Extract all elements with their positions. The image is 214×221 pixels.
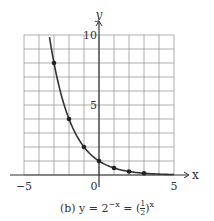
data-point (142, 171, 147, 176)
caption-prefix: (b) y = 2 (60, 202, 109, 215)
curve-y-2-neg-x (50, 37, 175, 174)
chart-caption: (b) y = 2−x = (12)x (0, 200, 214, 217)
data-point (112, 166, 117, 171)
data-point (82, 145, 87, 150)
x-axis-label: x (192, 168, 199, 182)
caption-mid: = ( (120, 202, 141, 215)
data-point (67, 117, 72, 122)
caption-exponent-neg-x: −x (108, 200, 119, 209)
y-tick-label-5: 5 (90, 99, 97, 112)
exponential-decay-plot: y x −5 0 5 5 10 (0, 0, 214, 221)
data-point (97, 159, 102, 164)
caption-exponent-x: x (150, 200, 155, 209)
data-point (127, 169, 132, 174)
x-tick-label-5: 5 (171, 180, 178, 193)
x-tick-label-0: 0 (91, 180, 98, 193)
y-axis-label: y (95, 8, 103, 22)
y-tick-label-10: 10 (83, 29, 97, 42)
x-tick-label-neg5: −5 (16, 180, 32, 193)
data-point (52, 61, 57, 66)
